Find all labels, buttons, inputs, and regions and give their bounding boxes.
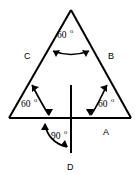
apex-angle-degree-symbol: o	[70, 27, 73, 34]
bottom-left-angle-value: 60	[21, 99, 31, 109]
geometry-figure: 60 o 60 o 60 o 90 o C B A D	[0, 0, 139, 175]
bottom-right-angle-value: 60	[98, 99, 108, 109]
bottom-right-angle-degree-symbol: o	[111, 96, 114, 103]
bottom-left-arc-arrowhead-lower	[45, 109, 53, 116]
bottom-left-angle-degree-symbol: o	[34, 96, 37, 103]
side-label-d: D	[67, 162, 74, 172]
side-label-b: B	[108, 51, 114, 61]
side-label-c: C	[24, 51, 31, 61]
side-label-a: A	[103, 127, 109, 137]
apex-angle-arc	[53, 50, 89, 57]
apex-angle-value: 60	[57, 30, 67, 40]
triangle-left-side	[9, 10, 71, 118]
perpendicular-angle-value: 90	[51, 131, 61, 141]
perpendicular-arc-arrowhead-upper	[41, 123, 49, 130]
geometry-diagram-canvas: 60 o 60 o 60 o 90 o C B A D	[0, 0, 139, 175]
perpendicular-angle-degree-symbol: o	[64, 128, 67, 135]
